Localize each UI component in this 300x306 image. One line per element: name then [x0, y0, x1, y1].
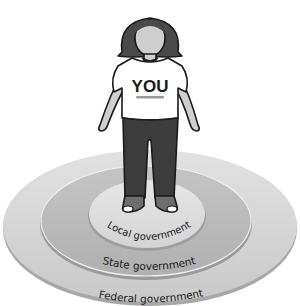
government-levels-diagram: Local government State government Federa…	[0, 0, 300, 306]
shirt-underline	[136, 96, 164, 99]
you-label: YOU	[132, 77, 169, 96]
